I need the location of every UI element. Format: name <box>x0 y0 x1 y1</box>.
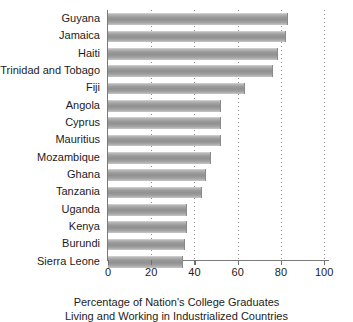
category-label: Ghana <box>0 166 104 183</box>
bar <box>108 31 286 43</box>
category-label: Burundi <box>0 235 104 252</box>
category-label: Mauritius <box>0 131 104 148</box>
value-axis-tick <box>324 260 325 265</box>
value-axis-tick <box>281 260 282 265</box>
axis-title-line-2: Living and Working in Industrialized Cou… <box>0 310 353 322</box>
bar <box>108 135 221 147</box>
horizontal-bar-chart: GuyanaJamaicaHaitiTrinidad and TobagoFij… <box>0 0 353 322</box>
bar-row <box>108 114 335 131</box>
bar <box>108 13 288 25</box>
plot-area <box>108 10 335 260</box>
value-axis-tick-label: 60 <box>218 266 258 278</box>
bar <box>108 239 185 251</box>
value-axis-tick-label: 40 <box>174 266 214 278</box>
category-label: Tanzania <box>0 183 104 200</box>
bar <box>108 100 221 112</box>
bar <box>108 117 221 129</box>
category-label: Jamaica <box>0 27 104 44</box>
bar <box>108 187 202 199</box>
bar-row <box>108 27 335 44</box>
bar-row <box>108 62 335 79</box>
category-label: Uganda <box>0 201 104 218</box>
value-axis-tick <box>108 260 109 265</box>
bar <box>108 65 273 77</box>
value-axis-tick-label: 100 <box>304 266 344 278</box>
bar-row <box>108 235 335 252</box>
bar-row <box>108 201 335 218</box>
category-label: Fiji <box>0 79 104 96</box>
value-axis-tick <box>194 260 195 265</box>
value-axis-tick-label: 20 <box>131 266 171 278</box>
category-label: Trinidad and Tobago <box>0 62 104 79</box>
value-axis-tick-label: 0 <box>88 266 128 278</box>
bar-row <box>108 166 335 183</box>
category-label: Cyprus <box>0 114 104 131</box>
bar <box>108 204 187 216</box>
bar <box>108 169 206 181</box>
category-label: Mozambique <box>0 149 104 166</box>
category-label: Guyana <box>0 10 104 27</box>
bar <box>108 221 187 233</box>
category-label: Kenya <box>0 218 104 235</box>
category-label: Angola <box>0 97 104 114</box>
value-axis-tick-label: 80 <box>261 266 301 278</box>
value-axis: 020406080100 <box>108 260 335 282</box>
category-label: Haiti <box>0 45 104 62</box>
bar-row <box>108 45 335 62</box>
bar-row <box>108 218 335 235</box>
category-axis-labels: GuyanaJamaicaHaitiTrinidad and TobagoFij… <box>0 10 104 270</box>
axis-title: Percentage of Nation's College Graduates… <box>0 296 353 322</box>
bar-row <box>108 79 335 96</box>
value-axis-tick <box>151 260 152 265</box>
bar <box>108 83 245 95</box>
bar-row <box>108 183 335 200</box>
value-axis-tick <box>238 260 239 265</box>
bar <box>108 152 211 164</box>
bar-row <box>108 149 335 166</box>
bar-row <box>108 97 335 114</box>
bar-row <box>108 131 335 148</box>
bar-row <box>108 10 335 27</box>
bar <box>108 48 278 60</box>
axis-title-line-1: Percentage of Nation's College Graduates <box>0 296 353 310</box>
